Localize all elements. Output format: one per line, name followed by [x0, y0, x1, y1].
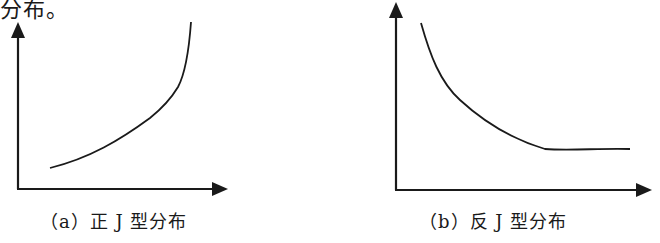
x-axis-arrow-icon [212, 182, 228, 196]
caption-b: （b）反 J 型分布 [419, 207, 567, 233]
curve-b [421, 23, 630, 150]
caption-a: （a）正 J 型分布 [40, 207, 187, 233]
y-axis-arrow-icon [389, 2, 403, 18]
y-axis-arrow-icon [11, 22, 25, 38]
figure-b-reverse-j [389, 2, 652, 197]
figure-a-positive-j [11, 22, 228, 196]
curve-a [50, 22, 191, 168]
x-axis-arrow-icon [636, 183, 652, 197]
